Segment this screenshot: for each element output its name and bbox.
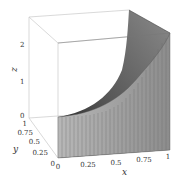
y-tick-1: 1 [23, 120, 27, 128]
x-tick-1: 1 [166, 153, 170, 161]
z-tick-1: 1 [20, 78, 24, 86]
z-axis-label: z [9, 67, 19, 73]
y-tick-05: 0.5 [29, 138, 40, 146]
z-tick-0: 0 [20, 112, 24, 120]
y-tick-075: 0.75 [17, 129, 33, 137]
y-axis-label: y [12, 144, 19, 154]
x-axis-label: x [122, 167, 127, 177]
x-tick-025: 0.25 [80, 161, 96, 169]
surface-plot-3d: 0 1 2 z 1 0.75 0.5 0.25 0 y 0 0.25 0.5 0… [0, 0, 177, 180]
z-axis: 0 1 2 z [9, 41, 24, 120]
y-axis: 1 0.75 0.5 0.25 0 y [12, 120, 55, 168]
x-tick-05: 0.5 [110, 159, 121, 167]
y-tick-025: 0.25 [32, 149, 48, 157]
x-tick-075: 0.75 [136, 156, 152, 164]
z-tick-2: 2 [20, 41, 24, 49]
y-tick-0: 0 [51, 160, 55, 168]
x-tick-0: 0 [56, 163, 60, 171]
